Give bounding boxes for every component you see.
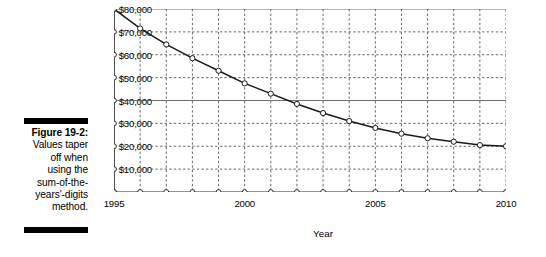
- x-axis-title: Year: [100, 228, 546, 239]
- caption-line-1: off when: [0, 152, 88, 164]
- x-tick-label: 2000: [234, 198, 255, 209]
- figure-caption-block: Figure 19-2: Values taper off when using…: [0, 0, 100, 257]
- x-tick-label: 1995: [104, 198, 125, 209]
- x-tick-label: 2010: [496, 198, 517, 209]
- caption-text: Figure 19-2: Values taper off when using…: [0, 127, 88, 214]
- plot-area: [114, 9, 506, 192]
- caption-line-0: Values taper: [0, 139, 88, 151]
- figure-number: Figure 19-2:: [0, 127, 88, 139]
- caption-line-3: sum-of-the-: [0, 177, 88, 189]
- caption-rule-top: [24, 118, 88, 124]
- caption-rule-bottom: [24, 227, 88, 233]
- plot-svg: [114, 9, 506, 192]
- caption-line-5: method.: [0, 201, 88, 213]
- caption-line-4: years'-digits: [0, 189, 88, 201]
- line-chart: $10,000$20,000$30,000$40,000$50,000$60,0…: [100, 0, 546, 257]
- x-axis-tick-labels: 1995200020052010: [100, 0, 546, 20]
- caption-line-2: using the: [0, 164, 88, 176]
- figure-container: Figure 19-2: Values taper off when using…: [0, 0, 546, 257]
- x-tick-label: 2005: [365, 198, 386, 209]
